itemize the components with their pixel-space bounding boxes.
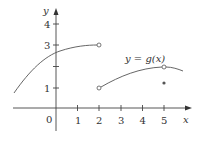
x-axis-arrow-icon	[185, 106, 192, 111]
y-axis-arrow-icon	[54, 8, 59, 15]
filled-point-marker	[162, 81, 165, 84]
x-tick-label-4: 4	[140, 115, 146, 126]
y-tick-label-1: 1	[44, 83, 50, 94]
origin-label: 0	[46, 114, 52, 125]
y-axis-label: y	[42, 5, 49, 16]
curve-left-branch	[14, 45, 97, 93]
open-circle-marker	[97, 86, 101, 90]
x-axis-label: x	[183, 114, 189, 125]
y-tick-label-3: 3	[44, 40, 50, 51]
x-tick-label-5: 5	[161, 115, 167, 126]
open-circle-marker	[97, 43, 101, 47]
open-circle-marker	[162, 65, 166, 69]
x-tick-label-1: 1	[75, 115, 81, 126]
function-label: y = g(x)	[124, 53, 165, 64]
x-tick-label-3: 3	[118, 115, 124, 126]
x-tick-label-2: 2	[96, 115, 102, 126]
function-graph: 0 1 2 3 4 5 x 1 3 4 y y = g(x)	[0, 0, 209, 142]
curve-right-branch	[101, 67, 183, 87]
y-tick-label-4: 4	[44, 19, 50, 30]
